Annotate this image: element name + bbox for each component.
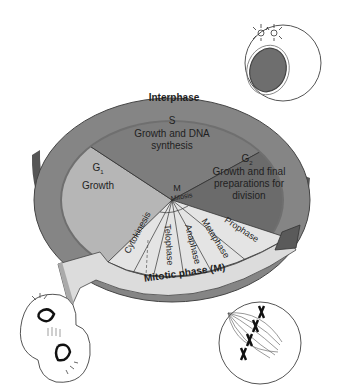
s-desc-line-2: synthesis	[151, 140, 193, 151]
interphase-label: Interphase	[149, 92, 200, 103]
g2-desc-line-1: Growth and final	[213, 166, 286, 177]
cell-cycle-diagram: Interphase S Growth and DNA synthesis G2…	[0, 0, 341, 392]
m-symbol: M	[173, 183, 181, 193]
s-desc-line-1: Growth and DNA	[134, 128, 210, 139]
metaphase-cell-illustration	[219, 302, 301, 384]
s-symbol: S	[169, 115, 176, 126]
g2-desc-line-3: division	[232, 190, 265, 201]
interphase-cell-illustration	[241, 24, 321, 101]
g1-desc-line-1: Growth	[82, 180, 114, 191]
telophase-cell-illustration	[20, 293, 90, 382]
g2-desc-line-2: preparations for	[214, 178, 285, 189]
